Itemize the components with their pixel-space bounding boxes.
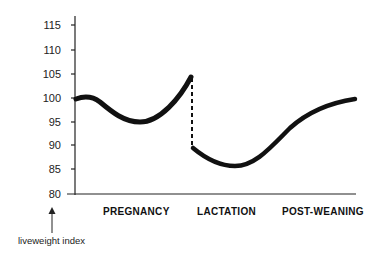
y-tick-label-85: 85 xyxy=(49,163,61,175)
y-tick-label-105: 105 xyxy=(43,68,61,80)
lactation-postweaning-curve xyxy=(193,99,355,166)
phase-label-pregnancy: PREGNANCY xyxy=(103,206,170,217)
y-tick-label-115: 115 xyxy=(43,19,61,31)
arrow-up-icon xyxy=(49,207,56,233)
y-tick-label-90: 90 xyxy=(49,139,61,151)
phase-label-lactation: LACTATION xyxy=(197,206,256,217)
liveweight-chart: 115 110 105 100 95 90 85 80 PREGNANCY LA… xyxy=(0,0,374,262)
phase-label-post-weaning: POST-WEANING xyxy=(282,206,364,217)
y-tick-label-95: 95 xyxy=(49,116,61,128)
y-tick-label-80: 80 xyxy=(49,188,61,200)
y-axis-label: liveweight index xyxy=(18,235,85,246)
y-tick-label-100: 100 xyxy=(43,92,61,104)
pregnancy-curve xyxy=(76,77,191,122)
y-tick-label-110: 110 xyxy=(43,44,61,56)
